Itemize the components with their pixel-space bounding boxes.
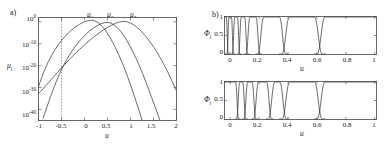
- panel-a-plot: [0, 0, 196, 145]
- panel-a: a) μi 100 10-10 10-20 10-30 10-40 -1 -0.…: [0, 0, 196, 145]
- panel-b: b) Φi 1 0.5 0 0 0.2 0.4 0.6 0.8 1 u Φ7 Φ…: [196, 0, 391, 145]
- panel-b-bottom-plot: [196, 0, 391, 145]
- figure-root: a) μi 100 10-10 10-20 10-30 10-40 -1 -0.…: [0, 0, 391, 145]
